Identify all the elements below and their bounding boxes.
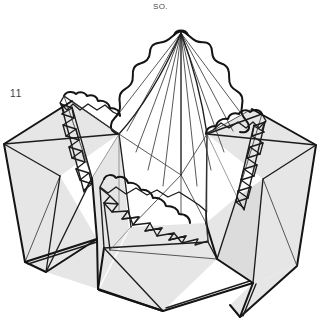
origami-figure: .sh { fill:#e6e6e6; stroke:none; } .shd{… xyxy=(0,0,321,327)
diagram-page: SO. 11 .sh { fill:#e6e6e6; stroke:none; … xyxy=(0,0,321,327)
bottom-caption xyxy=(0,320,321,327)
white-faces xyxy=(119,31,207,227)
face-inner-right xyxy=(181,31,207,223)
